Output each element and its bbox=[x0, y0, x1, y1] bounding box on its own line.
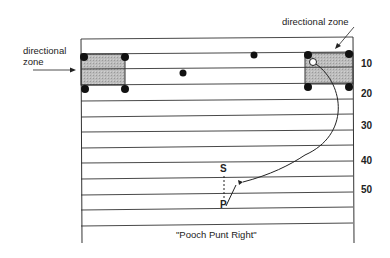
right-zone-arrow bbox=[338, 27, 354, 46]
yard-marker-40: 40 bbox=[361, 155, 372, 166]
snapper-label: S bbox=[220, 163, 227, 174]
right-sideline bbox=[353, 37, 354, 243]
arrowhead-icon bbox=[70, 68, 76, 73]
ball-target-icon bbox=[310, 59, 317, 66]
play-caption: "Pooch Punt Right" bbox=[176, 229, 257, 240]
arrowhead-icon bbox=[238, 180, 243, 185]
kick-start-segment bbox=[226, 185, 236, 206]
punter-label: P bbox=[220, 199, 227, 210]
yard-marker-50: 50 bbox=[361, 184, 372, 195]
field-diagram bbox=[0, 0, 390, 258]
left-zone-label: directional zone bbox=[23, 45, 66, 67]
yard-marker-20: 20 bbox=[361, 88, 372, 99]
yard-marker-30: 30 bbox=[361, 120, 372, 131]
right-zone-label: directional zone bbox=[282, 16, 349, 27]
yard-marker-10: 10 bbox=[361, 58, 372, 69]
right-directional-zone bbox=[305, 53, 353, 84]
